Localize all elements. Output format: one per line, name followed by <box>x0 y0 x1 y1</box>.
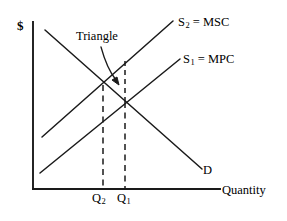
x-tick-label-q2: Q2 <box>92 192 106 206</box>
x-tick-label-q2-subscript: 2 <box>101 196 106 206</box>
triangle-annotation-arrow <box>101 47 116 80</box>
y-axis-label: $ <box>17 19 24 32</box>
curve-label-s1-letter: S <box>183 52 190 66</box>
demand-curve <box>45 30 202 169</box>
curve-label-s2-subscript: 2 <box>185 20 190 30</box>
x-tick-label-q1: Q1 <box>117 192 131 206</box>
x-axis-label: Quantity <box>222 184 266 197</box>
curve-label-s2-msc: S2= MSC <box>178 16 229 30</box>
x-tick-label-q2-letter: Q <box>92 191 101 205</box>
diagram-canvas: $ Quantity S2= MSC S1= MPC D Triangle Q2… <box>0 0 287 221</box>
triangle-annotation-arrowhead <box>112 77 119 85</box>
curve-label-s1-equals: = MPC <box>195 52 235 66</box>
curve-label-s2-equals: = MSC <box>190 15 230 29</box>
triangle-annotation-label: Triangle <box>76 30 118 43</box>
x-tick-label-q1-subscript: 1 <box>126 196 131 206</box>
curve-label-s1-mpc: S1= MPC <box>183 53 234 67</box>
x-tick-label-q1-letter: Q <box>117 191 126 205</box>
curve-label-s2-letter: S <box>178 15 185 29</box>
curve-label-d: D <box>203 164 212 177</box>
curve-label-s1-subscript: 1 <box>190 57 195 67</box>
